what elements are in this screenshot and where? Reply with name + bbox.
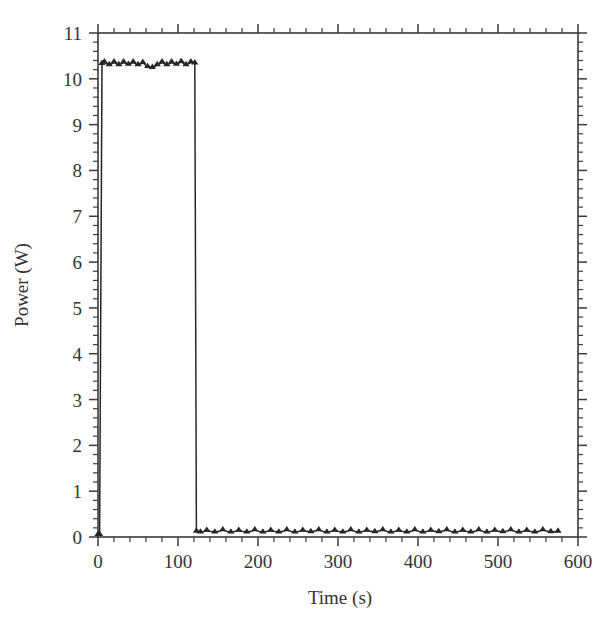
y-tick-label-11: 11 (64, 23, 82, 44)
y-tick-label-0: 0 (73, 527, 83, 548)
x-tick-label-200: 200 (244, 551, 273, 572)
data-marker (219, 526, 226, 531)
data-marker (459, 526, 466, 531)
data-marker (168, 58, 175, 63)
data-marker (139, 59, 146, 64)
data-marker (371, 528, 378, 533)
data-marker (395, 526, 402, 531)
x-tick-label-500: 500 (484, 551, 513, 572)
data-marker (347, 526, 354, 531)
y-tick-label-8: 8 (73, 160, 83, 181)
y-tick-label-3: 3 (73, 390, 83, 411)
data-marker (235, 526, 242, 531)
data-marker (363, 526, 370, 531)
data-marker (130, 58, 137, 63)
axis-tick-labels: 010020030040050060001234567891011 (63, 23, 592, 572)
data-marker (315, 526, 322, 531)
plot-frame (98, 33, 578, 537)
x-tick-label-400: 400 (404, 551, 433, 572)
x-tick-label-600: 600 (564, 551, 593, 572)
y-tick-label-2: 2 (73, 435, 83, 456)
data-line-0 (98, 62, 558, 535)
x-tick-label-0: 0 (93, 551, 103, 572)
data-marker (411, 526, 418, 531)
data-marker (251, 526, 258, 531)
x-tick-label-100: 100 (164, 551, 193, 572)
y-axis-title: Power (W) (11, 243, 33, 327)
y-tick-label-9: 9 (73, 115, 83, 136)
y-tick-label-5: 5 (73, 298, 83, 319)
data-marker (307, 528, 314, 533)
y-tick-label-10: 10 (63, 69, 82, 90)
data-marker (331, 526, 338, 531)
chart-figure: Power (W) Time (s) 010020030040050060001… (0, 0, 614, 627)
y-tick-label-7: 7 (73, 206, 83, 227)
data-marker (547, 528, 554, 533)
data-marker (475, 526, 482, 531)
axis-ticks (89, 24, 587, 546)
y-tick-label-6: 6 (73, 252, 83, 273)
data-marker (379, 526, 386, 531)
x-tick-label-300: 300 (324, 551, 353, 572)
data-marker (120, 58, 127, 63)
power-vs-time-chart: Power (W) Time (s) 010020030040050060001… (0, 0, 614, 627)
data-marker (499, 528, 506, 533)
data-marker (539, 526, 546, 531)
data-marker (523, 526, 530, 531)
data-marker (443, 526, 450, 531)
data-marker (203, 526, 210, 531)
data-marker (299, 526, 306, 531)
data-marker (158, 58, 165, 63)
data-marker (435, 528, 442, 533)
data-marker (267, 526, 274, 531)
x-axis-title: Time (s) (308, 587, 372, 609)
data-marker (507, 526, 514, 531)
data-marker (178, 58, 185, 63)
data-marker (110, 58, 117, 63)
y-tick-label-1: 1 (73, 481, 83, 502)
data-series-layer (94, 58, 561, 536)
y-tick-label-4: 4 (73, 344, 83, 365)
data-marker (554, 527, 561, 532)
data-marker (283, 526, 290, 531)
data-marker (427, 526, 434, 531)
data-marker (491, 526, 498, 531)
